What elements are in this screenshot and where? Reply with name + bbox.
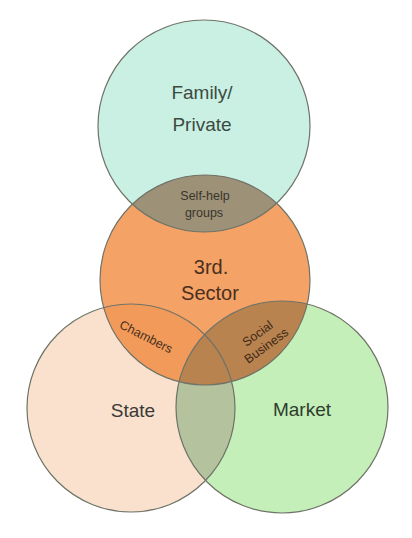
third-sector-label-line2: Sector [181, 282, 239, 304]
venn-diagram: Family/ Private 3rd. Sector State Market… [0, 0, 412, 538]
family-label-line2: Private [172, 114, 231, 135]
self-help-label-line2: groups [185, 206, 223, 220]
family-label-line1: Family/ [171, 82, 233, 103]
self-help-label-line1: Self-help [180, 189, 229, 203]
third-sector-label-line1: 3rd. [194, 256, 228, 278]
market-label: Market [273, 399, 332, 420]
state-label: State [111, 400, 155, 421]
